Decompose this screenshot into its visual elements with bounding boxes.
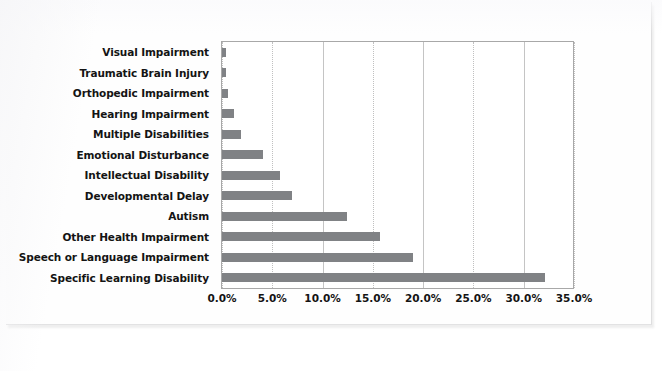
bar bbox=[222, 130, 241, 139]
bar bbox=[222, 48, 226, 57]
category-label: Orthopedic Impairment bbox=[73, 87, 209, 99]
x-tick-label: 0.0% bbox=[207, 292, 236, 304]
category-label-row: Orthopedic Impairment bbox=[0, 83, 215, 104]
bar-chart: Visual ImpairmentTraumatic Brain InjuryO… bbox=[0, 0, 662, 371]
x-tick-label: 30.0% bbox=[505, 292, 541, 304]
bar-row bbox=[222, 186, 574, 207]
bar bbox=[222, 89, 228, 98]
x-tick-label: 10.0% bbox=[304, 292, 340, 304]
bar bbox=[222, 273, 545, 282]
category-axis-labels: Visual ImpairmentTraumatic Brain InjuryO… bbox=[0, 42, 215, 288]
category-label-row: Hearing Impairment bbox=[0, 104, 215, 125]
category-label: Visual Impairment bbox=[102, 46, 209, 58]
bar-row bbox=[222, 145, 574, 166]
category-label-row: Specific Learning Disability bbox=[0, 268, 215, 289]
category-label-row: Traumatic Brain Injury bbox=[0, 63, 215, 84]
category-label: Specific Learning Disability bbox=[50, 272, 209, 284]
bar-row bbox=[222, 165, 574, 186]
x-tick-label: 35.0% bbox=[556, 292, 592, 304]
category-label: Intellectual Disability bbox=[85, 169, 209, 181]
bar-row bbox=[222, 104, 574, 125]
bar bbox=[222, 150, 263, 159]
bar-row bbox=[222, 83, 574, 104]
category-label-row: Developmental Delay bbox=[0, 186, 215, 207]
category-label-row: Visual Impairment bbox=[0, 42, 215, 63]
bar bbox=[222, 253, 413, 262]
bar-row bbox=[222, 124, 574, 145]
bar-row bbox=[222, 42, 574, 63]
bar-row bbox=[222, 227, 574, 248]
bar bbox=[222, 171, 280, 180]
value-axis-labels: 0.0%5.0%10.0%15.0%20.0%25.0%30.0%35.0% bbox=[221, 292, 574, 310]
bar-row bbox=[222, 206, 574, 227]
category-label: Autism bbox=[168, 210, 209, 222]
category-label-row: Autism bbox=[0, 206, 215, 227]
category-label-row: Emotional Disturbance bbox=[0, 145, 215, 166]
category-label: Other Health Impairment bbox=[62, 231, 209, 243]
category-label: Emotional Disturbance bbox=[76, 149, 209, 161]
bar bbox=[222, 212, 347, 221]
bar-row bbox=[222, 247, 574, 268]
bar-row bbox=[222, 63, 574, 84]
bar bbox=[222, 191, 292, 200]
category-label: Developmental Delay bbox=[85, 190, 209, 202]
x-tick-label: 20.0% bbox=[405, 292, 441, 304]
gridline-350 bbox=[574, 42, 576, 288]
x-tick-label: 5.0% bbox=[258, 292, 287, 304]
bar bbox=[222, 68, 226, 77]
category-label-row: Speech or Language Impairment bbox=[0, 247, 215, 268]
category-label-row: Other Health Impairment bbox=[0, 227, 215, 248]
x-tick-label: 25.0% bbox=[455, 292, 491, 304]
x-tick-label: 15.0% bbox=[355, 292, 391, 304]
bar-row bbox=[222, 268, 574, 289]
bars-container bbox=[222, 42, 574, 288]
category-label-row: Multiple Disabilities bbox=[0, 124, 215, 145]
category-label: Speech or Language Impairment bbox=[19, 251, 209, 263]
category-label: Multiple Disabilities bbox=[93, 128, 209, 140]
bar bbox=[222, 232, 380, 241]
category-label-row: Intellectual Disability bbox=[0, 165, 215, 186]
bar bbox=[222, 109, 234, 118]
category-label: Traumatic Brain Injury bbox=[79, 67, 209, 79]
category-label: Hearing Impairment bbox=[92, 108, 209, 120]
